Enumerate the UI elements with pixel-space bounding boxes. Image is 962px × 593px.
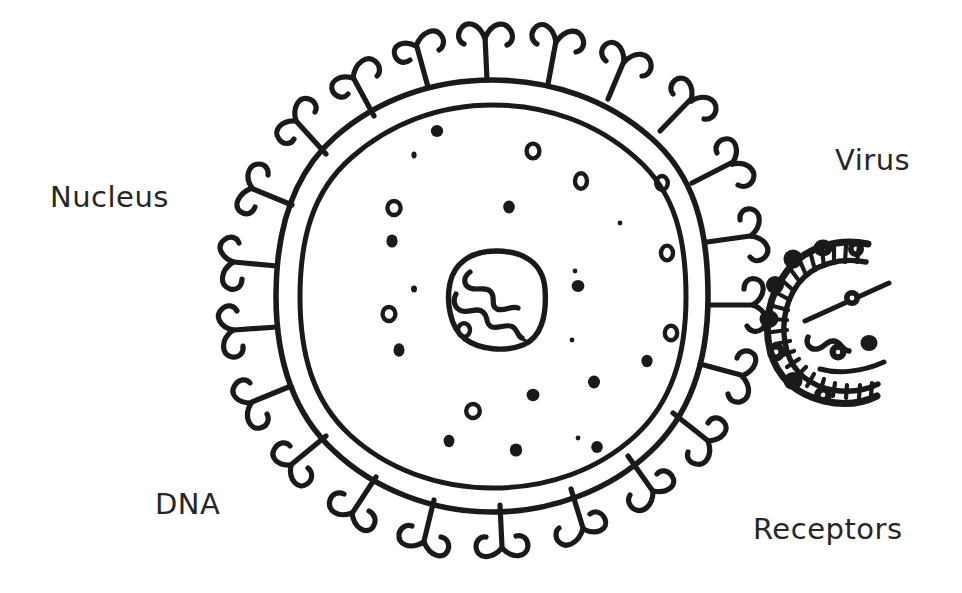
cell-virus-illustration	[0, 0, 962, 593]
label-receptors: Receptors	[753, 512, 903, 546]
virus-particle	[760, 240, 890, 404]
diagram-canvas: Nucleus Virus DNA Receptors	[0, 0, 962, 593]
nucleus	[449, 251, 546, 349]
organelle-solid-dots	[386, 125, 652, 457]
receptor-item	[602, 42, 651, 99]
receptor-item	[237, 164, 292, 214]
label-nucleus: Nucleus	[50, 180, 169, 214]
label-virus: Virus	[835, 143, 910, 177]
receptor-item	[273, 436, 326, 486]
receptor-item	[220, 237, 277, 289]
receptor-item	[700, 351, 756, 402]
label-dna: DNA	[155, 487, 220, 521]
receptor-item	[532, 25, 584, 84]
receptor-item	[277, 99, 326, 154]
receptor-item	[660, 78, 716, 131]
receptor-item	[459, 24, 513, 80]
receptor-item	[707, 209, 768, 261]
virus-genome	[805, 283, 889, 372]
receptor-item	[330, 477, 376, 531]
receptor-item	[394, 31, 443, 87]
receptor-item	[708, 279, 766, 332]
receptor-item	[673, 413, 726, 464]
organelle-hollow-rings	[383, 144, 678, 418]
nucleus-dna-strand	[454, 272, 528, 342]
receptor-item	[218, 306, 277, 357]
receptor-item	[233, 380, 291, 428]
receptor-item	[692, 139, 754, 187]
